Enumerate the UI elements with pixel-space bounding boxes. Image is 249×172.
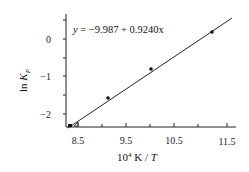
- x-tick-label: 9.5: [120, 135, 133, 146]
- data-point: [106, 96, 110, 100]
- x-tick-label: 11.5: [218, 136, 235, 147]
- x-tick-label: 8.5: [72, 135, 85, 146]
- data-point: [68, 124, 72, 127]
- data-point: [210, 30, 214, 34]
- chart: 0 −1 −2 8.5 9.5 10.5 11.5 y = −9.987 + 0…: [0, 0, 249, 172]
- x-ticks: [78, 123, 227, 127]
- y-axis-label: ln KP: [17, 68, 32, 92]
- data-point: [149, 67, 153, 71]
- x-axis-label: 104 K / T: [117, 151, 158, 163]
- y-tick-label: −2: [40, 109, 51, 120]
- equation-annotation: y = −9.987 + 0.9240x: [72, 24, 164, 35]
- y-tick-label: 0: [46, 34, 51, 45]
- y-tick-label: −1: [40, 71, 51, 82]
- x-tick-label: 10.5: [165, 135, 183, 146]
